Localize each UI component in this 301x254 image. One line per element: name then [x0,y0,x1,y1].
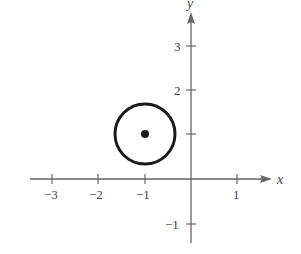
x-axis-label: x [276,172,284,187]
x-tick-label: 1 [233,187,240,202]
y-tick-label: −1 [165,217,179,232]
x-tick-label: −3 [44,187,58,202]
y-tick-label: 2 [174,83,181,98]
x-tick-label: −2 [89,187,103,202]
coordinate-plane: x y −3 −2 −1 1 3 2 −1 [0,0,301,254]
center-point [141,130,149,138]
y-axis-label: y [185,0,194,11]
x-tick-label: −1 [136,187,150,202]
y-tick-label: 3 [174,39,181,54]
